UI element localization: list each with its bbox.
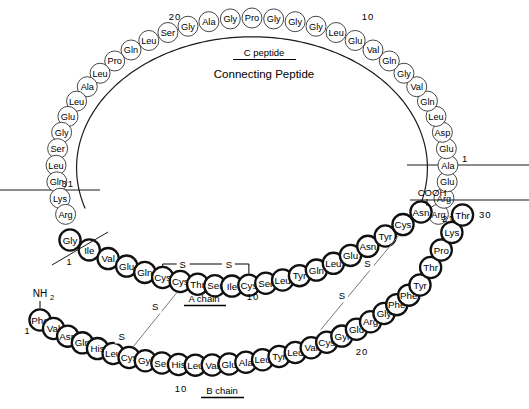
b-chain-number-20: 20: [356, 346, 369, 357]
residue-label: Ala: [441, 161, 455, 171]
residue-label: Pro: [245, 13, 259, 23]
residue-label: Val: [367, 45, 380, 55]
residue-label: Gln: [420, 97, 434, 107]
residue-label: Gly: [309, 22, 323, 32]
a-chain-residue: Cys: [392, 214, 413, 235]
b-chain-number-10: 10: [175, 383, 188, 394]
c-peptide-residue: Gly: [285, 12, 305, 32]
b-chain-number-1: 1: [24, 326, 29, 336]
c-peptide-residue: Arg: [56, 204, 76, 224]
residue-label: Tyr: [379, 231, 393, 242]
disulfide-s-label: S: [339, 290, 345, 301]
residue-label: Leu: [328, 28, 343, 38]
disulfide-s-label: S: [180, 259, 186, 270]
proinsulin-diagram: ArgArgGluAlaGluAspLeuGlnValGlyGlnValGluL…: [0, 0, 529, 409]
a-chain-number-1: 1: [66, 257, 71, 267]
residue-label: Cys: [395, 219, 412, 230]
c-peptide-number-31: 31: [61, 178, 74, 189]
residue-label: His: [172, 359, 186, 370]
residue-label: Gly: [288, 17, 302, 27]
disulfide-s-label: S: [119, 331, 125, 342]
c-peptide-residue: Gly: [306, 16, 326, 36]
a-chain-label: A chain: [188, 293, 219, 304]
disulfide-s-label: S: [364, 258, 370, 269]
residue-label: Gln: [382, 56, 396, 66]
residue-label: Arg: [58, 210, 72, 220]
residue-label: Val: [101, 253, 114, 264]
residue-label: Leu: [141, 36, 156, 46]
residue-label: Ile: [227, 281, 237, 292]
nh2-terminus-subscript: 2: [50, 293, 54, 302]
c-peptide-number-10: 10: [362, 11, 375, 22]
residue-label: Glu: [343, 250, 358, 261]
c-peptide-residue: Leu: [139, 30, 159, 50]
residue-label: Val: [206, 360, 219, 371]
residue-label: Thr: [423, 262, 438, 273]
residue-label: Leu: [428, 112, 443, 122]
c-peptide-residue: Ser: [158, 23, 178, 43]
c-peptide-label: C peptide: [244, 47, 285, 58]
residue-label: Glu: [440, 177, 454, 187]
residue-label: Ala: [202, 17, 216, 27]
residue-label: Glu: [61, 112, 75, 122]
residue-label: Glu: [119, 261, 134, 272]
residue-label: Leu: [48, 161, 63, 171]
c-peptide-residue: Gly: [264, 9, 284, 29]
residue-label: Asn: [413, 207, 430, 218]
c-peptide-residue: Glu: [345, 30, 365, 50]
residue-label: Thr: [455, 210, 470, 221]
residue-label: Lys: [53, 194, 67, 204]
residue-label: Pro: [434, 245, 450, 256]
residue-label: Val: [410, 82, 423, 92]
b-chain-residue: Thr: [452, 204, 473, 225]
residue-label: Gly: [267, 14, 281, 24]
residue-label: Glu: [348, 36, 362, 46]
b-chain-number-30: 30: [479, 209, 492, 220]
residue-label: Asn: [359, 241, 376, 252]
a-chain-residue: Gly: [59, 229, 80, 250]
residue-label: Ser: [50, 144, 64, 154]
residue-label: Gln: [137, 267, 152, 278]
residue-label: Lys: [444, 227, 459, 238]
b-chain-label: B chain: [206, 385, 238, 396]
residue-label: Pro: [108, 56, 122, 66]
residue-label: Ile: [84, 245, 94, 256]
a-chain-number-10: 10: [247, 291, 260, 302]
c-peptide-residue: Leu: [326, 23, 346, 43]
c-peptide-residue: Val: [363, 40, 383, 60]
residue-label: Tyr: [413, 280, 427, 291]
residue-label: Ala: [81, 82, 95, 92]
proinsulin-svg: ArgArgGluAlaGluAspLeuGlnValGlyGlnValGluL…: [0, 0, 529, 409]
c-peptide-residue: Ala: [199, 12, 219, 32]
residue-label: Gln: [124, 45, 138, 55]
residue-label: Gly: [223, 14, 237, 24]
nh2-terminus-label: NH: [33, 288, 47, 299]
disulfide-s-label: S: [152, 301, 158, 312]
residue-label: Gly: [63, 235, 78, 246]
c-peptide-residue: Pro: [242, 8, 262, 28]
residue-label: Ser: [161, 28, 175, 38]
residue-label: Leu: [325, 258, 341, 269]
connecting-peptide-label: Connecting Peptide: [214, 68, 314, 80]
residue-label: Gly: [181, 22, 195, 32]
residue-label: Asp: [434, 128, 450, 138]
c-peptide-number-20: 20: [169, 11, 182, 22]
disulfide-s-label: S: [226, 259, 232, 270]
cooh-terminus-label: COOH: [418, 187, 447, 198]
residue-label: Gly: [397, 69, 411, 79]
c-peptide-number-1: 1: [462, 153, 468, 164]
residue-label: Gly: [55, 128, 69, 138]
residue-label: Leu: [92, 69, 107, 79]
residue-label: Glu: [439, 144, 453, 154]
c-peptide-residue: Gly: [220, 9, 240, 29]
residue-label: Leu: [69, 97, 84, 107]
residue-label: Gln: [309, 265, 324, 276]
interchain-disulfide-left: [133, 292, 177, 347]
a-chain-residue: Asn: [410, 201, 431, 222]
c-peptide-inner-arc: [77, 37, 428, 209]
